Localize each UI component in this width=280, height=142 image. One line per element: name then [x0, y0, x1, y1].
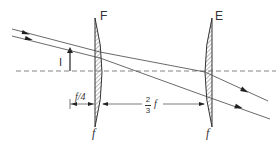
lens-diagram [0, 0, 280, 142]
image-label: I [59, 56, 62, 68]
frac-num: 2 [146, 96, 150, 104]
field-lens [95, 18, 102, 127]
ray-1 [12, 29, 268, 101]
ray-arrow [22, 30, 31, 36]
dim-arrowhead [102, 102, 108, 106]
dim-23f-fraction: 2 3 [145, 96, 151, 115]
dim-23f-var: f [154, 98, 157, 110]
dim-arrowhead [199, 102, 205, 106]
ray-arrow [234, 104, 243, 111]
frac-den: 3 [146, 107, 150, 115]
eye-lens-focal-label: f [206, 127, 209, 139]
eye-lens-label: E [215, 10, 223, 22]
ray-arrow [240, 86, 249, 94]
dim-f4-label: f/4 [75, 91, 86, 103]
field-lens-label: F [100, 10, 107, 22]
ray-2 [12, 36, 270, 119]
dim-arrowhead [88, 102, 94, 106]
field-lens-focal-label: f [92, 127, 95, 139]
